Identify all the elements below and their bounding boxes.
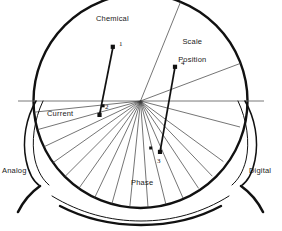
data-point-label-1: 1 bbox=[119, 40, 123, 48]
sector-label-digital: Digital bbox=[249, 166, 271, 175]
sector-label-scale-line1: Scale bbox=[182, 37, 202, 46]
sector-label-phase: Phase bbox=[131, 178, 153, 187]
data-point-1-marker bbox=[111, 45, 115, 49]
left-brace bbox=[18, 101, 49, 212]
bottom-brace bbox=[52, 196, 229, 225]
sector-label-chemical: Chemical bbox=[96, 14, 129, 23]
data-point-label-3: 3 bbox=[157, 157, 161, 165]
data-point-3-marker bbox=[158, 150, 162, 154]
data-point-label-4: 4 bbox=[181, 59, 185, 67]
right-brace bbox=[232, 101, 263, 212]
data-point-2-marker bbox=[97, 113, 101, 117]
radial-diagram-svg bbox=[0, 0, 282, 231]
sector-label-current: Current bbox=[47, 109, 73, 118]
figure-canvas: Chemical Scale Position Current Analog D… bbox=[0, 0, 282, 231]
sector-label-analog: Analog bbox=[2, 166, 27, 175]
data-point-label-2: 2 bbox=[105, 103, 109, 111]
sector-label-scale-position: Scale Position bbox=[169, 28, 206, 73]
data-point-3-tick bbox=[149, 147, 152, 150]
